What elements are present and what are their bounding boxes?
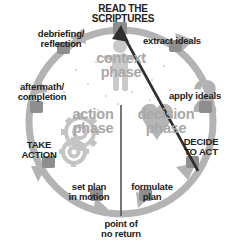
- phase-label-decision: decision phase: [124, 108, 208, 136]
- process-cycle-diagram: 2: [0, 0, 243, 249]
- phase-label-action: action phase: [57, 108, 129, 136]
- node-aftermath-completion: aftermath/ completion: [1, 82, 83, 101]
- node-read-scriptures: READ THE SCRIPTURES: [73, 4, 173, 24]
- node-set-plan-in-motion: set plan in motion: [56, 182, 122, 201]
- node-take-action: TAKE ACTION: [6, 140, 72, 159]
- node-decide-to-act: DECIDE TO ACT: [168, 137, 234, 156]
- node-extract-ideals: extract ideals: [143, 36, 233, 46]
- phase-label-context: context phase: [82, 52, 160, 80]
- node-debriefing-reflection: debriefing/ reflection: [20, 29, 102, 48]
- node-apply-ideals: apply ideals: [169, 91, 243, 101]
- node-formulate-plan: formulate plan: [119, 182, 185, 201]
- annotation-point-of-no-return: point of no return: [76, 219, 166, 238]
